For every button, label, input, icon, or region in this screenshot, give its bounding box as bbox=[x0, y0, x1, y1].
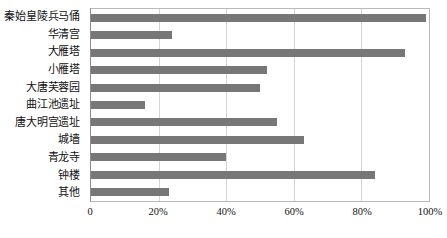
category-label: 大唐芙蓉园 bbox=[0, 79, 85, 97]
bar bbox=[91, 136, 304, 144]
category-label: 秦始皇陵兵马俑 bbox=[0, 8, 85, 26]
category-label: 曲江池遗址 bbox=[0, 96, 85, 114]
bar-row bbox=[91, 26, 429, 43]
bar-row bbox=[91, 114, 429, 131]
category-label: 大雁塔 bbox=[0, 43, 85, 61]
horizontal-bar-chart: 秦始皇陵兵马俑 华清宫 大雁塔 小雁塔 大唐芙蓉园 曲江池遗址 唐大明宫遗址 城… bbox=[0, 0, 447, 238]
bar-row bbox=[91, 44, 429, 61]
x-tick-label: 100% bbox=[418, 206, 443, 217]
category-axis-labels: 秦始皇陵兵马俑 华清宫 大雁塔 小雁塔 大唐芙蓉园 曲江池遗址 唐大明宫遗址 城… bbox=[0, 8, 85, 202]
x-tick-label: 80% bbox=[352, 206, 371, 217]
plot-area bbox=[90, 8, 430, 202]
bar bbox=[91, 14, 426, 22]
bar bbox=[91, 101, 145, 109]
category-label: 小雁塔 bbox=[0, 61, 85, 79]
bar bbox=[91, 31, 172, 39]
bar-row bbox=[91, 79, 429, 96]
bar bbox=[91, 49, 405, 57]
x-tick-label: 0 bbox=[87, 206, 92, 217]
bar-row bbox=[91, 149, 429, 166]
bar bbox=[91, 118, 277, 126]
x-axis: 020%40%60%80%100% bbox=[90, 202, 430, 232]
category-label: 其他 bbox=[0, 184, 85, 202]
category-label: 华清宫 bbox=[0, 26, 85, 44]
bar-row bbox=[91, 131, 429, 148]
bar bbox=[91, 171, 375, 179]
bar-row bbox=[91, 184, 429, 201]
bar-row bbox=[91, 61, 429, 78]
bar bbox=[91, 84, 260, 92]
bar-row bbox=[91, 96, 429, 113]
bar-row bbox=[91, 9, 429, 26]
x-tick-label: 40% bbox=[216, 206, 235, 217]
x-tick-label: 20% bbox=[148, 206, 167, 217]
category-label: 唐大明宫遗址 bbox=[0, 114, 85, 132]
category-label: 青龙寺 bbox=[0, 149, 85, 167]
category-label: 钟楼 bbox=[0, 167, 85, 185]
bar bbox=[91, 188, 169, 196]
bar bbox=[91, 153, 226, 161]
category-label: 城墙 bbox=[0, 131, 85, 149]
bar bbox=[91, 66, 267, 74]
x-tick-label: 60% bbox=[284, 206, 303, 217]
bar-series bbox=[91, 9, 429, 201]
bar-row bbox=[91, 166, 429, 183]
gridline bbox=[429, 9, 430, 201]
